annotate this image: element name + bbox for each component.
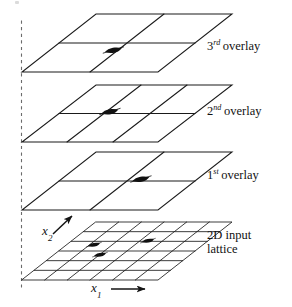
axis-label-x2-symbol: x <box>42 223 48 238</box>
label-2d-input-lattice-line2: lattice <box>207 242 251 256</box>
layer-2d-input-lattice[interactable] <box>22 222 232 280</box>
axis-label-x1: x1 <box>91 281 101 296</box>
label-1st-overlay-word: overlay <box>221 168 258 182</box>
axis-label-x1-subscript: 1 <box>97 290 102 300</box>
axis-label-x2: x2 <box>42 224 52 239</box>
layer-3rd-overlay-grid <box>22 14 232 72</box>
label-2nd-overlay-word: overlay <box>224 104 261 118</box>
label-1st-overlay: 1stoverlay <box>207 168 259 182</box>
axis-label-x1-symbol: x <box>91 280 97 295</box>
layer-3rd-overlay[interactable] <box>22 14 232 72</box>
layer-1st-overlay-grid <box>22 152 232 210</box>
label-2nd-overlay-suffix: nd <box>213 103 221 112</box>
layer-2nd-overlay-grid <box>22 85 232 142</box>
label-2d-input-lattice-line1: 2D input <box>207 228 251 242</box>
label-1st-overlay-suffix: st <box>213 167 219 176</box>
layer-2d-input-lattice-grid <box>22 222 232 280</box>
label-3rd-overlay: 3rdoverlay <box>207 39 260 53</box>
layer-2nd-overlay[interactable] <box>22 85 232 142</box>
label-3rd-overlay-word: overlay <box>223 39 260 53</box>
layer-1st-overlay[interactable] <box>22 152 232 210</box>
figure-root: 3rdoverlay 2ndoverlay 1stoverlay 2D inpu… <box>0 0 292 307</box>
label-2d-input-lattice: 2D input lattice <box>207 228 251 256</box>
axis-label-x2-subscript: 2 <box>48 233 53 243</box>
label-3rd-overlay-suffix: rd <box>213 38 220 47</box>
axis-x2-arrow <box>53 216 72 234</box>
label-2nd-overlay: 2ndoverlay <box>207 104 261 118</box>
